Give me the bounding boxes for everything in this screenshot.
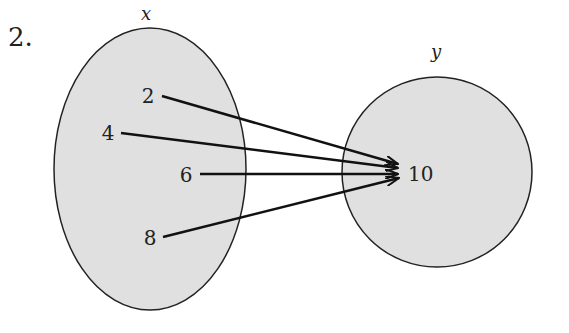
range-element-10: 10 <box>408 162 433 186</box>
domain-element-2: 2 <box>142 84 155 108</box>
domain-element-4: 4 <box>102 121 115 145</box>
domain-label: x <box>141 3 151 24</box>
domain-element-8: 8 <box>144 226 157 250</box>
domain-set-x <box>54 28 246 310</box>
mapping-diagram: 2. x y 2 4 6 8 10 <box>0 0 569 333</box>
range-set-y <box>342 77 532 267</box>
domain-element-6: 6 <box>180 163 193 187</box>
problem-number: 2. <box>8 22 33 52</box>
range-label: y <box>430 41 442 62</box>
